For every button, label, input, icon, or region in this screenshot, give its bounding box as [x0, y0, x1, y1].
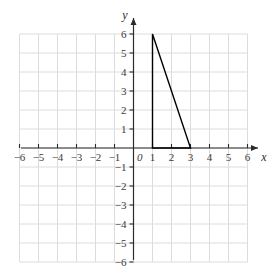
y-tick-label: −4: [115, 218, 127, 230]
x-tick-label: 5: [226, 151, 232, 163]
x-axis-label: x: [260, 150, 267, 164]
x-tick-label: −2: [90, 151, 102, 163]
y-axis-label: y: [121, 8, 128, 22]
y-tick-label: −1: [115, 161, 127, 173]
x-tick-label: −5: [33, 151, 45, 163]
x-tick-label: 6: [245, 151, 251, 163]
x-tick-label: −4: [52, 151, 64, 163]
y-axis-arrow: [131, 18, 137, 25]
x-tick-label: 1: [150, 151, 156, 163]
y-tick-label: 4: [121, 66, 127, 78]
x-tick-label: −3: [71, 151, 83, 163]
x-axis-arrow: [251, 145, 258, 151]
origin-label: 0: [137, 151, 143, 163]
y-tick-label: −5: [115, 237, 127, 249]
coordinate-plane-figure: −6−5−4−3−2−1123456654321−1−2−3−4−5−6 0 x…: [0, 0, 277, 275]
x-tick-label: 4: [207, 151, 213, 163]
graph-canvas: −6−5−4−3−2−1123456654321−1−2−3−4−5−6 0 x…: [0, 0, 277, 275]
y-tick-label: 1: [121, 123, 127, 135]
x-tick-label: 3: [188, 151, 194, 163]
y-tick-label: 5: [121, 47, 127, 59]
y-tick-label: −2: [115, 180, 127, 192]
y-tick-label: 6: [121, 28, 127, 40]
y-tick-label: 3: [121, 85, 127, 97]
y-tick-label: −3: [115, 199, 127, 211]
y-tick-label: 2: [121, 104, 127, 116]
x-tick-label: −6: [14, 151, 26, 163]
x-tick-label: 2: [169, 151, 175, 163]
y-tick-label: −6: [115, 256, 127, 268]
